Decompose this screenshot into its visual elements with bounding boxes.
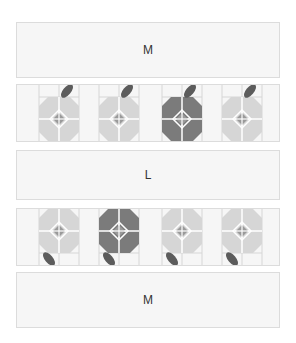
apple-tile[interactable] [99, 85, 139, 141]
tile-row-1-graphic [17, 85, 279, 141]
size-label: L [145, 168, 152, 182]
apple-tile[interactable] [162, 209, 202, 265]
size-option-m-top[interactable]: M [16, 22, 280, 78]
size-label: M [143, 43, 153, 57]
apple-tile[interactable] [222, 209, 262, 265]
apple-tile[interactable] [39, 85, 79, 141]
apple-tile[interactable] [162, 85, 202, 141]
tile-row-2-graphic [17, 209, 279, 265]
size-option-m-bottom[interactable]: M [16, 272, 280, 328]
size-option-l[interactable]: L [16, 150, 280, 200]
tile-row-2 [16, 208, 280, 266]
apple-tile[interactable] [39, 209, 79, 265]
size-label: M [143, 293, 153, 307]
apple-tile[interactable] [222, 85, 262, 141]
apple-tile[interactable] [99, 209, 139, 265]
tile-row-1 [16, 84, 280, 142]
